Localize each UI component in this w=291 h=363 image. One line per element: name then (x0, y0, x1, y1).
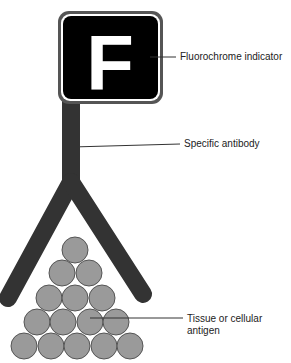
antigen-label: Tissue or cellular antigen (187, 313, 267, 337)
leader-antibody (72, 144, 180, 147)
fluorochrome-label: Fluorochrome indicator (180, 51, 282, 63)
antibody-shape (8, 100, 143, 298)
antibody-label: Specific antibody (184, 138, 260, 150)
fluorochrome-box: F (58, 11, 163, 107)
fluorochrome-letter: F (86, 19, 134, 107)
